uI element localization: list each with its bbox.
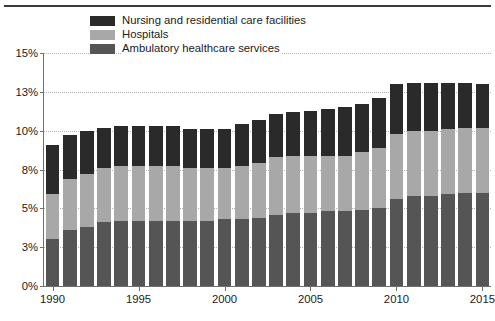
bar-segment [304, 111, 318, 156]
bar-segment [149, 166, 163, 220]
bar-column[interactable] [424, 53, 438, 286]
bar-segment [235, 166, 249, 219]
bar-column[interactable] [269, 53, 283, 286]
bar-column[interactable] [149, 53, 163, 286]
bar-column[interactable] [407, 53, 421, 286]
bar-segment [476, 84, 490, 127]
x-axis-tick-label: 2000 [212, 293, 237, 305]
bar-segment [218, 219, 232, 286]
bar-column[interactable] [63, 53, 77, 286]
bar-segment [355, 104, 369, 152]
bar-column[interactable] [390, 53, 404, 286]
bar-segment [321, 211, 335, 286]
y-axis-tick-mark [40, 286, 43, 287]
bar-segment [321, 156, 335, 212]
bar-segment [458, 193, 472, 286]
bar-segment [80, 174, 94, 227]
bar-column[interactable] [235, 53, 249, 286]
bar-segment [458, 83, 472, 128]
bar-column[interactable] [252, 53, 266, 286]
x-axis-tick-mark [139, 287, 140, 291]
bar-column[interactable] [97, 53, 111, 286]
bar-column[interactable] [46, 53, 60, 286]
bar-segment [304, 213, 318, 286]
bar-column[interactable] [166, 53, 180, 286]
bar-segment [200, 168, 214, 221]
bar-segment [286, 156, 300, 213]
plot-area [44, 53, 491, 286]
bar-segment [458, 128, 472, 193]
bar-segment [149, 221, 163, 286]
legend-swatch-icon [90, 44, 115, 54]
bar-column[interactable] [476, 53, 490, 286]
bar-segment [476, 128, 490, 193]
bar-segment [114, 221, 128, 286]
bar-column[interactable] [372, 53, 386, 286]
bar-column[interactable] [441, 53, 455, 286]
bar-column[interactable] [218, 53, 232, 286]
bar-segment [183, 221, 197, 286]
x-axis-tick-mark [310, 287, 311, 291]
bar-segment [407, 196, 421, 286]
bar-segment [252, 218, 266, 286]
bar-segment [390, 199, 404, 286]
bar-column[interactable] [114, 53, 128, 286]
bar-segment [80, 227, 94, 286]
bar-segment [321, 109, 335, 156]
bar-segment [338, 156, 352, 212]
bar-column[interactable] [304, 53, 318, 286]
bar-segment [372, 208, 386, 286]
x-axis-tick-mark [482, 287, 483, 291]
bar-segment [166, 221, 180, 286]
legend-item[interactable]: Nursing and residential care facilities [90, 14, 308, 27]
x-axis-tick-label: 2010 [384, 293, 409, 305]
bar-segment [424, 196, 438, 286]
y-axis-tick-label: 0% [22, 280, 38, 292]
bar-column[interactable] [132, 53, 146, 286]
bar-column[interactable] [321, 53, 335, 286]
y-axis-tick-label: 10% [15, 125, 38, 137]
legend-item[interactable]: Hospitals [90, 28, 308, 41]
bar-segment [200, 221, 214, 286]
bar-segment [372, 98, 386, 148]
bar-segment [132, 221, 146, 286]
y-axis-tick-mark [40, 247, 43, 248]
legend-item-label: Ambulatory healthcare services [122, 42, 282, 55]
chart-legend: Nursing and residential care facilitiesH… [90, 14, 308, 55]
bar-segment [97, 168, 111, 222]
x-axis-tick-mark [225, 287, 226, 291]
bar-segment [407, 131, 421, 196]
bar-segment [218, 129, 232, 168]
bar-segment [252, 120, 266, 163]
x-axis-tick-mark [396, 287, 397, 291]
bar-segment [372, 148, 386, 209]
bar-segment [252, 163, 266, 217]
bar-segment [63, 230, 77, 286]
y-axis-tick-label: 15% [15, 47, 38, 59]
bar-segment [46, 194, 60, 239]
bar-column[interactable] [183, 53, 197, 286]
x-axis-tick-label: 1990 [40, 293, 65, 305]
bar-column[interactable] [80, 53, 94, 286]
bar-column[interactable] [286, 53, 300, 286]
bar-segment [114, 126, 128, 166]
y-axis-tick-label: 13% [15, 86, 38, 98]
bar-segment [286, 112, 300, 155]
legend-item[interactable]: Ambulatory healthcare services [90, 42, 308, 55]
bar-segment [114, 166, 128, 220]
legend-swatch-icon [90, 30, 115, 40]
bar-segment [235, 124, 249, 166]
bar-segment [441, 129, 455, 194]
y-axis-tick-label: 3% [22, 241, 38, 253]
bar-segment [390, 134, 404, 199]
bar-segment [97, 128, 111, 168]
bar-column[interactable] [458, 53, 472, 286]
bar-segment [46, 145, 60, 195]
bar-segment [338, 107, 352, 155]
bar-column[interactable] [200, 53, 214, 286]
bar-column[interactable] [355, 53, 369, 286]
x-axis-tick-label: 2005 [298, 293, 323, 305]
bar-segment [80, 131, 94, 174]
x-axis-tick-mark [53, 287, 54, 291]
bar-column[interactable] [338, 53, 352, 286]
